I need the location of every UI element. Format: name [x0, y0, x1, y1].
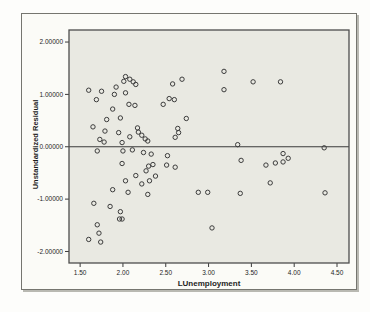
scatter-plot: 2.000001.000000.00000-1.00000-2.000001.5… [22, 14, 358, 291]
x-tick-label: 1.50 [74, 269, 87, 276]
x-tick-label: 4.00 [288, 269, 301, 276]
y-tick-label: 1.00000 [40, 91, 64, 98]
screenshot-canvas: 2.000001.000000.00000-1.00000-2.000001.5… [0, 0, 370, 312]
figure-frame: 2.000001.000000.00000-1.00000-2.000001.5… [21, 13, 357, 290]
y-tick-label: 0.00000 [40, 143, 64, 150]
x-axis-title: LUnemployment [69, 278, 349, 289]
x-tick-label: 3.50 [245, 269, 258, 276]
y-tick-label: -1.00000 [37, 195, 63, 202]
x-tick-label: 4.50 [331, 269, 344, 276]
x-tick-label: 3.00 [202, 269, 215, 276]
y-axis-title: Unstandardized Residual [30, 28, 41, 261]
y-tick-label: 2.00000 [40, 38, 64, 45]
x-tick-label: 2.50 [159, 269, 172, 276]
y-tick-label: -2.00000 [37, 248, 63, 255]
x-tick-label: 2.00 [117, 269, 130, 276]
